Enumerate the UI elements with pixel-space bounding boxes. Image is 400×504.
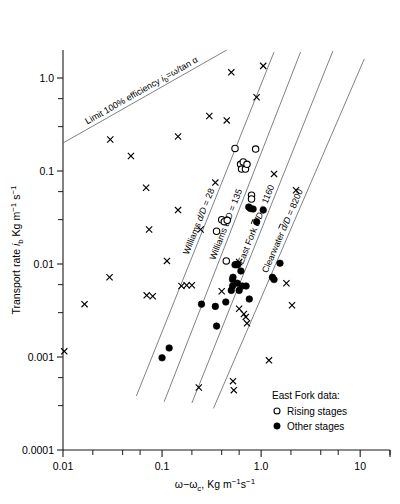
reference-line-east-fork-1160 xyxy=(192,51,333,403)
legend: East Fork data: Rising stages Other stag… xyxy=(272,390,347,432)
marker-open-circle xyxy=(244,161,250,167)
y-axis-title: Transport rate ib Kg m−1 s−1 xyxy=(9,185,25,315)
reference-line-label: Limit 100% efficiency ib=ω/tan α xyxy=(83,55,200,128)
marker-filled-circle xyxy=(166,345,173,352)
legend-marker-other-stages xyxy=(274,423,280,429)
y-tick-label: 1.0 xyxy=(39,72,54,84)
y-tick-label: 0.1 xyxy=(39,165,54,177)
legend-title: East Fork data: xyxy=(272,390,340,401)
marker-open-circle xyxy=(248,196,254,202)
y-tick-label: 0.0001 xyxy=(22,444,54,456)
legend-marker-rising-stages xyxy=(274,408,280,414)
marker-filled-circle xyxy=(238,268,245,275)
reference-line-label: Williams d/D = 28 xyxy=(181,187,216,256)
y-tick-label: 0.01 xyxy=(34,258,55,270)
marker-open-circle xyxy=(232,145,238,151)
marker-filled-circle xyxy=(246,296,253,303)
marker-filled-circle xyxy=(250,206,257,213)
legend-label-rising-stages: Rising stages xyxy=(287,406,347,417)
x-axis-ticks: 0.010.11.010 xyxy=(53,450,390,472)
marker-filled-circle xyxy=(234,262,241,269)
marker-open-circle xyxy=(223,258,229,264)
x-tick-label: 0.01 xyxy=(53,460,74,472)
marker-filled-circle xyxy=(212,303,219,310)
y-tick-label: 0.001 xyxy=(28,351,54,363)
reference-label-group-williams-28: Williams d/D = 28 xyxy=(181,187,216,256)
marker-open-circle xyxy=(213,228,219,234)
transport-rate-scatter-chart: 1.00.10.010.0010.0001 0.010.11.010 Limit… xyxy=(0,0,400,504)
marker-filled-circle xyxy=(243,283,250,290)
marker-filled-circle xyxy=(230,274,237,281)
marker-filled-circle xyxy=(271,276,278,283)
marker-filled-circle xyxy=(223,299,230,306)
marker-filled-circle xyxy=(260,207,267,214)
scatter-plot-figure: 1.00.10.010.0010.0001 0.010.11.010 Limit… xyxy=(0,0,400,504)
marker-filled-circle xyxy=(253,218,260,225)
reference-label-group-limit-100-efficiency: Limit 100% efficiency ib=ω/tan α xyxy=(83,55,200,128)
x-tick-label: 10 xyxy=(354,460,366,472)
marker-filled-circle xyxy=(277,260,284,267)
reference-line-labels: Limit 100% efficiency ib=ω/tan αWilliams… xyxy=(83,55,305,275)
marker-open-circle xyxy=(252,146,258,152)
y-axis-ticks: 1.00.10.010.0010.0001 xyxy=(22,72,63,456)
marker-open-circle xyxy=(224,217,230,223)
x-tick-label: 1.0 xyxy=(254,460,269,472)
marker-filled-circle xyxy=(213,323,220,330)
x-tick-label: 0.1 xyxy=(155,460,170,472)
reference-line-limit-100-efficiency xyxy=(63,50,227,143)
x-axis-title: ω−ωc, Kg m−1s−1 xyxy=(175,477,256,493)
reference-line-clearwater-8200 xyxy=(213,59,364,408)
marker-filled-circle xyxy=(198,301,205,308)
marker-filled-circle xyxy=(159,355,166,362)
legend-label-other-stages: Other stages xyxy=(287,421,344,432)
